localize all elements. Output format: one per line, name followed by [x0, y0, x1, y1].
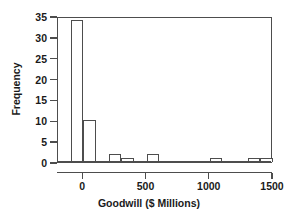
- y-axis-title: Frequency: [10, 44, 22, 134]
- y-axis-tick: [50, 100, 57, 101]
- y-axis-tick: [50, 58, 57, 59]
- x-axis-tick: [82, 173, 83, 179]
- y-axis-tick-label: 20: [35, 75, 47, 85]
- x-axis-tick-label: 500: [137, 181, 155, 192]
- x-axis-title: Goodwill ($ Millions): [0, 197, 298, 209]
- x-axis-tick-label: 0: [79, 181, 85, 192]
- y-axis-tick: [50, 141, 57, 142]
- x-axis-tick-label: 1000: [197, 181, 220, 192]
- y-axis-tick: [50, 37, 57, 38]
- y-axis-tick-label: 10: [35, 116, 47, 126]
- histogram-bar: [83, 120, 96, 162]
- x-axis-line: [57, 172, 272, 173]
- y-axis-tick-label: 0: [41, 158, 47, 168]
- plot-area: [57, 17, 272, 163]
- y-axis-tick: [50, 162, 57, 163]
- x-axis-tick: [271, 173, 272, 179]
- y-axis-tick: [50, 79, 57, 80]
- histogram-figure: 05101520253035 050010001500 Goodwill ($ …: [0, 0, 298, 218]
- bars-layer: [58, 18, 271, 162]
- zero-baseline: [58, 161, 271, 162]
- x-axis-tick: [145, 173, 146, 179]
- x-axis-tick: [208, 173, 209, 179]
- x-axis-tick-label: 1500: [260, 181, 283, 192]
- y-axis-tick-label: 30: [35, 33, 47, 43]
- y-axis-tick: [50, 16, 57, 17]
- histogram-bar: [71, 20, 84, 162]
- y-axis-tick: [50, 121, 57, 122]
- y-axis-tick-label: 35: [35, 12, 47, 22]
- y-axis-tick-label: 5: [41, 137, 47, 147]
- y-axis-tick-label: 15: [35, 95, 47, 105]
- y-axis-tick-label: 25: [35, 54, 47, 64]
